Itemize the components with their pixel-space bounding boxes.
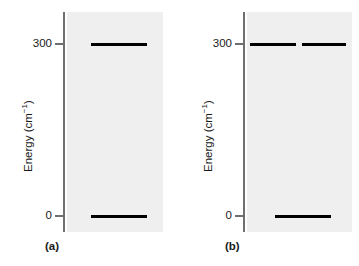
y-tick-mark-300-a xyxy=(55,43,63,45)
y-tick-mark-0-a xyxy=(55,215,63,217)
y-tick-label-300-b: 300 xyxy=(194,38,232,50)
panel-label-a: (a) xyxy=(45,240,59,252)
y-tick-mark-0-b xyxy=(235,215,243,217)
y-axis-spine-a xyxy=(63,12,65,232)
y-axis-title-superscript-b: −1 xyxy=(200,104,209,113)
panel-b: 300 0 Energy (cm−1) (b) xyxy=(180,0,359,266)
y-axis-title-text-b: Energy (cm xyxy=(202,113,214,172)
y-axis-title-b: Energy (cm−1) xyxy=(202,100,214,172)
y-tick-mark-300-b xyxy=(235,43,243,45)
panel-label-b: (b) xyxy=(225,240,240,252)
energy-level-0-b xyxy=(275,215,331,218)
energy-level-300-a xyxy=(91,43,147,46)
panel-a: 300 0 Energy (cm−1) (a) xyxy=(0,0,179,266)
y-axis-title-text-a: Energy (cm xyxy=(22,113,34,172)
energy-level-figure: 300 0 Energy (cm−1) (a) 300 0 Energy (cm… xyxy=(0,0,359,266)
y-axis-title-suffix-a: ) xyxy=(22,100,34,104)
y-tick-label-0-a: 0 xyxy=(14,210,52,222)
energy-level-0-a xyxy=(91,215,147,218)
y-axis-title-a: Energy (cm−1) xyxy=(22,100,34,172)
energy-level-300-b-component-2 xyxy=(302,43,346,46)
energy-level-300-b-component-1 xyxy=(250,43,296,46)
y-axis-spine-b xyxy=(243,12,245,232)
y-axis-title-suffix-b: ) xyxy=(202,100,214,104)
y-tick-label-300-a: 300 xyxy=(14,38,52,50)
y-axis-title-superscript-a: −1 xyxy=(20,104,29,113)
y-tick-label-0-b: 0 xyxy=(194,210,232,222)
